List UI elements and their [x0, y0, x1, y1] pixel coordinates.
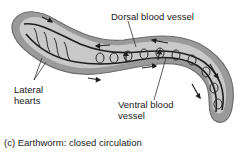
earthworm-illustration — [0, 0, 248, 156]
label-ventral-blood-vessel-line2: vessel — [118, 110, 145, 121]
label-lateral-hearts-line1: Lateral — [14, 84, 43, 95]
label-lateral-hearts-line2: hearts — [14, 95, 40, 106]
label-dorsal-blood-vessel: Dorsal blood vessel — [111, 11, 194, 22]
earthworm-circulation-diagram: Dorsal blood vessel Lateral hearts Ventr… — [0, 0, 248, 156]
label-ventral-blood-vessel-line1: Ventral blood — [118, 99, 173, 110]
figure-caption: (c) Earthworm: closed circulation — [4, 137, 142, 148]
